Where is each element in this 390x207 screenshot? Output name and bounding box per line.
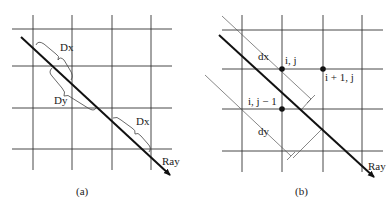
- grid-point-ij1: [279, 106, 285, 112]
- panel-a: Dx Dy Dx Ray (a): [12, 15, 180, 198]
- caption-b: (b): [295, 185, 308, 198]
- label-dy-b: dy: [258, 125, 270, 137]
- label-point-i1j: i + 1, j: [325, 71, 354, 83]
- label-point-ij: i, j: [285, 54, 297, 66]
- label-point-ij1: i, j − 1: [248, 95, 277, 107]
- label-dx-bottom: Dx: [136, 115, 150, 127]
- label-ray-b: Ray: [368, 160, 386, 172]
- grid-a: [12, 15, 172, 170]
- label-ray-a: Ray: [162, 155, 180, 167]
- grid-point-ij: [279, 66, 285, 72]
- label-dx-top: Dx: [60, 41, 74, 53]
- caption-a: (a): [76, 185, 89, 198]
- label-dx: dx: [258, 50, 270, 62]
- ray-a: [21, 37, 170, 175]
- label-dy: Dy: [54, 94, 68, 106]
- panel-b: dx dy i, j i + 1, j i, j − 1 Ray (b): [205, 15, 386, 198]
